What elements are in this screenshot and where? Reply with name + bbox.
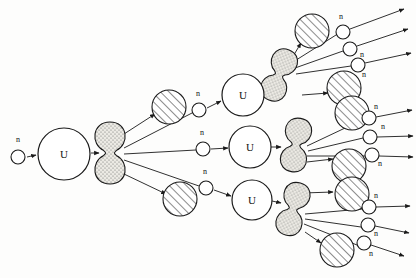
neutron: n [196,128,210,156]
arrow [350,9,404,29]
arrow [379,156,413,157]
arrow [376,110,412,117]
arrow [124,174,166,194]
arrow [124,114,155,134]
neutron: n [199,167,213,195]
arrow [376,206,410,207]
neutron-label: n [378,159,382,168]
neutron: n [365,148,382,168]
fission-diagram-svg: UUUU nnnnnnnnnnnnn [0,0,416,278]
fission-fragment [273,179,313,238]
fission-fragment [95,122,125,184]
neutron-label: n [203,167,207,176]
arrow [357,29,408,46]
neutron-label: n [196,89,200,98]
arrow [27,155,36,157]
neutron-label: n [381,122,385,131]
trajectory-line [308,138,363,151]
neutron-label: n [374,102,378,111]
arrow [272,201,281,203]
arrow [377,136,413,137]
uranium-nucleus-layer: UUUU [38,74,272,220]
uranium-label: U [239,89,247,101]
fission-product [320,233,354,267]
trajectory-line [124,150,196,154]
neutron: n [357,236,373,258]
uranium-nucleus: U [229,126,271,168]
neutron: n [363,122,385,144]
neutron-label: n [360,50,364,59]
neutron-label: n [200,128,204,137]
fission-product [163,182,197,216]
neutron: n [336,12,350,39]
neutron-label: n [16,135,20,144]
arrow [375,226,409,233]
uranium-nucleus: U [38,128,90,180]
fission-chain-reaction-figure: UUUU nnnnnnnnnnnnn [0,0,416,278]
arrow [207,101,221,108]
arrow [214,190,231,196]
arrow [302,93,328,95]
trajectory-line [305,219,361,227]
trajectory-line [295,51,343,68]
uranium-label: U [60,148,68,160]
neutron-label: n [374,191,378,200]
arrow [365,53,411,63]
neutron: n [192,89,206,117]
uranium-label: U [248,194,256,206]
arrow [371,245,404,256]
neutron: n [361,218,378,238]
neutron-label: n [362,70,366,79]
neutron: n [11,135,25,164]
arrow [307,159,333,162]
neutron-label: n [339,12,343,21]
arrow [211,148,228,149]
fission-product [295,14,329,48]
neutron-label: n [374,229,378,238]
uranium-nucleus: U [232,180,272,220]
arrow [305,232,321,243]
neutron-label: n [369,249,373,258]
trajectory-line [124,160,199,186]
uranium-nucleus: U [222,74,264,116]
uranium-label: U [246,141,254,153]
fission-product [152,90,186,124]
